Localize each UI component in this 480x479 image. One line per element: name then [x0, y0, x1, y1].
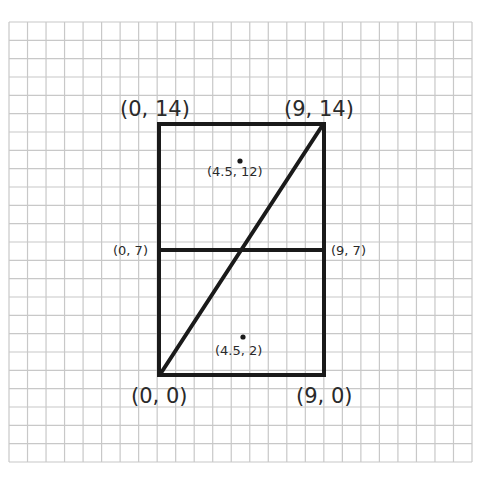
label-bottom-right: (9, 0): [296, 384, 352, 408]
label-upper-point: (4.5, 12): [207, 164, 263, 179]
label-bottom-left: (0, 0): [131, 384, 187, 408]
point-lower: [240, 334, 245, 339]
label-mid-left: (0, 7): [113, 243, 148, 258]
label-lower-point: (4.5, 2): [215, 343, 262, 358]
label-top-right: (9, 14): [284, 97, 354, 121]
coordinate-diagram: (0, 14) (9, 14) (0, 0) (9, 0) (0, 7) (9,…: [0, 0, 480, 479]
label-top-left: (0, 14): [120, 97, 190, 121]
label-mid-right: (9, 7): [331, 243, 366, 258]
graph-paper-grid: [9, 22, 472, 462]
point-upper: [237, 158, 242, 163]
